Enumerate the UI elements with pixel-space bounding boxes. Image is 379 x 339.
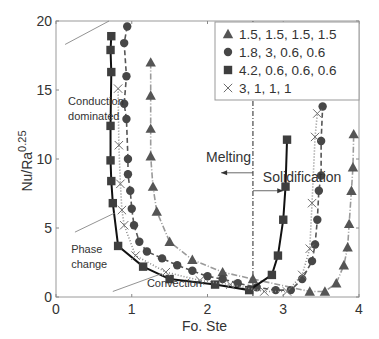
y-axis-label: Nu/Ra0.25 [16,130,35,191]
legend-entry: 4.2, 0.6, 0.6, 0.6 [224,63,337,78]
square-marker [279,216,287,224]
triangle-marker [145,151,155,160]
circle-marker [120,39,128,47]
triangle-marker [145,57,155,66]
legend: 1.5, 1.5, 1.5, 1.51.8, 3, 0.6, 0.64.2, 0… [215,22,359,100]
square-marker [224,66,232,74]
y-tick-label: 10 [36,151,52,167]
triangle-marker [348,162,358,171]
square-marker [107,177,115,185]
square-marker [107,68,115,76]
circle-marker [158,254,166,262]
square-marker [211,280,219,288]
triangle-marker [305,286,315,295]
legend-label: 3, 1, 1, 1 [239,81,292,96]
circle-marker [124,155,132,163]
circle-marker [122,72,130,80]
circle-marker [135,238,143,246]
circle-marker [128,204,136,212]
legend-label: 1.5, 1.5, 1.5, 1.5 [239,27,337,42]
triangle-marker [346,186,356,195]
triangle-marker [339,260,349,269]
triangle-marker [342,242,352,251]
triangle-marker [248,274,258,283]
y-tick-label: 20 [36,13,52,29]
circle-marker [224,48,232,56]
circle-marker [203,272,211,280]
triangle-marker [145,90,155,99]
triangle-marker [164,237,174,246]
x-axis-label: Fo. Ste [182,318,227,334]
annotation-phase: Phase [71,243,102,255]
triangle-marker [152,206,162,215]
annotation-change: change [71,258,107,270]
y-tick-label: 15 [36,82,52,98]
square-marker [106,122,114,130]
triangle-marker [145,123,155,132]
circle-marker [271,286,279,294]
square-marker [268,271,276,279]
melting-arrow-head [221,170,227,175]
circle-marker [298,275,306,283]
legend-entry: 1.8, 3, 0.6, 0.6 [224,45,326,60]
circle-marker [308,257,316,265]
square-marker [109,199,117,207]
annotation-convection: Convection [147,277,202,289]
square-marker [106,46,114,54]
x-tick-label: 4 [355,301,363,317]
circle-marker [126,187,134,195]
triangle-marker [344,219,354,228]
y-tick-label: 5 [44,220,52,236]
x-tick-label: 1 [128,301,136,317]
circle-marker [315,187,323,195]
circle-marker [143,247,151,255]
legend-label: 1.8, 3, 0.6, 0.6 [239,45,325,60]
x-tick-label: 2 [204,301,212,317]
square-marker [274,251,282,259]
triangle-marker [148,181,158,190]
legend-label: 4.2, 0.6, 0.6, 0.6 [239,63,337,78]
triangle-marker [331,278,341,287]
circle-marker [313,216,321,224]
y-tick-label: 0 [44,289,52,305]
square-marker [107,32,115,40]
nusselt-chart: 0123405101520Fo. SteNu/Ra0.25 Conduction… [0,0,379,339]
legend-entry: 1.5, 1.5, 1.5, 1.5 [223,27,337,42]
circle-marker [124,170,132,178]
circle-marker [317,137,325,145]
annotation-dominated: dominated [68,110,119,122]
square-marker [283,135,291,143]
chart-canvas: 0123405101520Fo. SteNu/Ra0.25 Conduction… [0,0,379,339]
circle-marker [188,267,196,275]
square-marker [114,242,122,250]
circle-marker [123,22,131,30]
annotation-conduction: Conduction [68,95,124,107]
annotation-melting: Melting [206,149,251,165]
square-marker [106,156,114,164]
circle-marker [234,279,242,287]
circle-marker [218,275,226,283]
circle-marker [122,115,130,123]
triangle-marker [348,129,358,138]
pointer-line [75,213,115,232]
circle-marker [318,102,326,110]
circle-marker [130,221,138,229]
pointer-line [65,21,109,44]
x-tick-label: 3 [279,301,287,317]
square-marker [139,262,147,270]
circle-marker [173,261,181,269]
annotation-solidification: Solidification [263,169,342,185]
circle-marker [311,240,319,248]
x-tick-label: 0 [52,301,60,317]
